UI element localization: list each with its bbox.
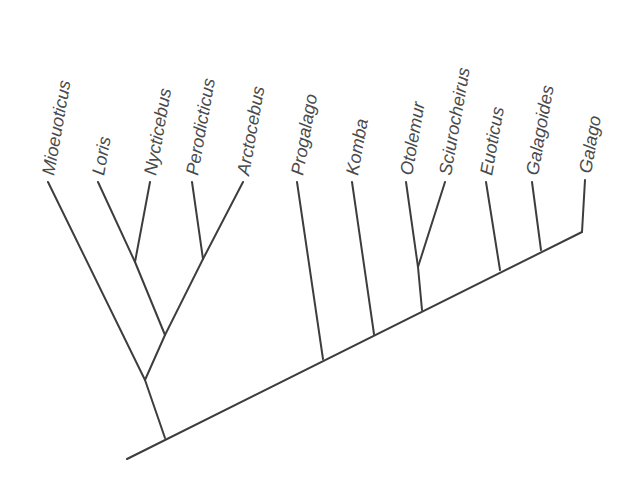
- internal-branch: [145, 335, 165, 380]
- branch-nycticebus: [135, 182, 150, 262]
- internal-branch: [135, 262, 165, 335]
- branch-galago: [582, 180, 585, 232]
- taxon-labels: MioeuoticusLorisNycticebusPerodicticusAr…: [38, 66, 605, 178]
- branch-galagoides: [532, 182, 541, 250]
- taxon-label-euoticus: Euoticus: [476, 105, 508, 176]
- branch-perodicticus: [192, 182, 203, 259]
- taxon-label-mioeuoticus: Mioeuoticus: [38, 79, 74, 177]
- taxon-label-perodicticus: Perodicticus: [182, 77, 219, 177]
- branch-euoticus: [486, 182, 500, 270]
- internal-branch: [145, 380, 165, 438]
- internal-branch: [418, 267, 422, 310]
- branch-sciurocheirus: [418, 182, 445, 267]
- branch-loris: [98, 182, 135, 262]
- cladogram: MioeuoticusLorisNycticebusPerodicticusAr…: [0, 0, 630, 481]
- taxon-label-progalago: Progalago: [287, 92, 321, 176]
- branch-arctocebus: [203, 182, 243, 259]
- taxon-label-arctocebus: Arctocebus: [233, 85, 269, 178]
- taxon-label-sciurocheirus: Sciurocheirus: [435, 66, 474, 177]
- taxon-label-otolemur: Otolemur: [396, 99, 429, 176]
- branch-komba: [352, 182, 374, 334]
- branch-mioeuoticus: [48, 182, 145, 380]
- branches: [48, 180, 585, 459]
- branch-progalago: [297, 182, 323, 359]
- taxon-label-loris: Loris: [88, 135, 114, 177]
- taxon-label-komba: Komba: [342, 117, 372, 177]
- taxon-label-galagoides: Galagoides: [522, 84, 558, 177]
- branch-otolemur: [406, 182, 418, 267]
- taxon-label-galago: Galago: [575, 114, 605, 175]
- internal-branch: [165, 259, 203, 335]
- taxon-label-nycticebus: Nycticebus: [140, 87, 175, 177]
- backbone-branch: [127, 232, 582, 459]
